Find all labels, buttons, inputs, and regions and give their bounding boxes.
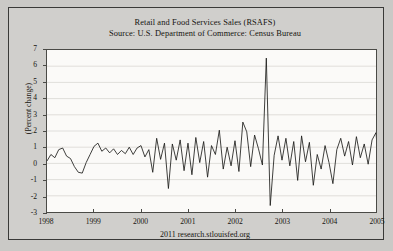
x-tick-label: 1999 bbox=[86, 217, 101, 226]
y-tick-mark bbox=[43, 49, 47, 50]
x-tick-label: 2001 bbox=[180, 217, 195, 226]
y-tick-mark bbox=[43, 180, 47, 181]
x-tick-mark bbox=[235, 209, 236, 213]
plot-canvas bbox=[46, 49, 377, 213]
chart-subtitle: Source: U.S. Department of Commerce: Cen… bbox=[18, 29, 392, 40]
chart-page: Retail and Food Services Sales (RSAFS) S… bbox=[0, 0, 393, 251]
chart-footer: 2011 research.stlouisfed.org bbox=[18, 230, 392, 239]
x-tick-label: 1998 bbox=[38, 217, 53, 226]
chart-frame: Retail and Food Services Sales (RSAFS) S… bbox=[8, 7, 384, 240]
chart-title-block: Retail and Food Services Sales (RSAFS) S… bbox=[18, 18, 392, 39]
y-tick-label: -2 bbox=[3, 192, 37, 201]
y-tick-mark bbox=[43, 147, 47, 148]
x-tick-label: 2002 bbox=[228, 217, 243, 226]
x-tick-mark bbox=[188, 209, 189, 213]
plot-area: 76543210-1-2-319981999200020012002200320… bbox=[46, 49, 377, 213]
y-tick-label: 4 bbox=[3, 94, 37, 103]
chart-title: Retail and Food Services Sales (RSAFS) bbox=[18, 18, 392, 29]
y-tick-mark bbox=[43, 164, 47, 165]
y-tick-mark bbox=[43, 131, 47, 132]
x-tick-mark bbox=[282, 209, 283, 213]
y-tick-label: -3 bbox=[3, 208, 37, 217]
y-tick-mark bbox=[43, 115, 47, 116]
y-tick-label: 7 bbox=[3, 44, 37, 53]
y-tick-label: 6 bbox=[3, 61, 37, 70]
x-tick-mark bbox=[141, 209, 142, 213]
y-tick-label: 5 bbox=[3, 77, 37, 86]
y-tick-mark bbox=[43, 82, 47, 83]
y-tick-mark bbox=[43, 213, 47, 214]
x-tick-mark bbox=[93, 209, 94, 213]
y-tick-label: 1 bbox=[3, 143, 37, 152]
y-tick-mark bbox=[43, 98, 47, 99]
x-tick-label: 2000 bbox=[133, 217, 148, 226]
y-tick-mark bbox=[43, 65, 47, 66]
y-tick-mark bbox=[43, 197, 47, 198]
y-tick-label: -1 bbox=[3, 176, 37, 185]
y-tick-label: 2 bbox=[3, 126, 37, 135]
x-tick-mark bbox=[330, 209, 331, 213]
x-tick-label: 2003 bbox=[275, 217, 290, 226]
series-canvas bbox=[47, 50, 376, 212]
x-tick-label: 2004 bbox=[322, 217, 337, 226]
y-tick-label: 3 bbox=[3, 110, 37, 119]
x-tick-label: 2005 bbox=[369, 217, 384, 226]
y-tick-label: 0 bbox=[3, 159, 37, 168]
